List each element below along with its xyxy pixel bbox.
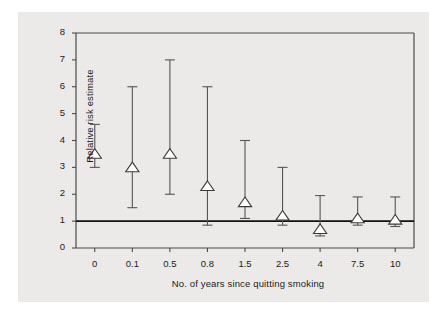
y-tick-label: 0 (43, 241, 65, 252)
x-tick-label: 0 (75, 258, 115, 269)
data-point-group (351, 197, 364, 225)
x-tick-label: 4 (300, 258, 340, 269)
marker-triangle (389, 215, 402, 225)
x-tick-label: 0.1 (112, 258, 152, 269)
y-tick-label: 7 (43, 53, 65, 64)
x-tick-label: 7.5 (338, 258, 378, 269)
x-tick-label: 10 (375, 258, 415, 269)
y-tick-label: 2 (43, 187, 65, 198)
data-series (88, 60, 402, 236)
y-tick-label: 6 (43, 80, 65, 91)
data-point-group (126, 87, 139, 208)
data-point-group (389, 197, 402, 227)
y-tick-label: 8 (43, 26, 65, 37)
marker-triangle (238, 197, 251, 207)
data-point-group (238, 141, 251, 219)
data-point-group (314, 196, 327, 236)
data-point-group (276, 167, 289, 225)
chart-figure: 012345678 00.10.50.81.52.547.510 Relativ… (0, 0, 447, 314)
x-tick-label: 2.5 (263, 258, 303, 269)
marker-triangle (163, 149, 176, 159)
marker-triangle (351, 213, 364, 223)
chart-panel: 012345678 00.10.50.81.52.547.510 Relativ… (18, 12, 429, 302)
x-tick-label: 1.5 (225, 258, 265, 269)
x-axis-tick-marks (95, 248, 395, 252)
x-tick-label: 0.8 (187, 258, 227, 269)
x-axis-label: No. of years since quitting smoking (78, 278, 418, 289)
x-tick-label: 0.5 (150, 258, 190, 269)
marker-triangle (126, 162, 139, 172)
marker-triangle (276, 210, 289, 220)
y-tick-label: 3 (43, 160, 65, 171)
marker-triangle (314, 224, 327, 234)
y-tick-label: 1 (43, 214, 65, 225)
y-tick-label: 4 (43, 134, 65, 145)
y-axis-label: Relative risk estimate (84, 36, 100, 196)
marker-triangle (201, 181, 214, 191)
y-tick-label: 5 (43, 107, 65, 118)
data-point-group (163, 60, 176, 194)
data-point-group (201, 87, 214, 225)
